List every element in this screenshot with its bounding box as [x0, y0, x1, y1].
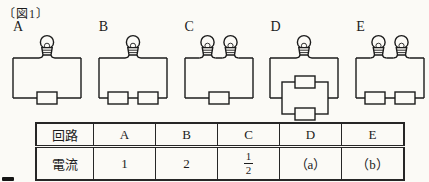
fraction-numerator: 1 [244, 150, 254, 164]
scan-artifact [2, 177, 14, 181]
circuit-diagrams-row: A B C D E [0, 19, 429, 122]
fraction-one-half: 1 2 [244, 150, 254, 176]
column-header-c: C [218, 123, 280, 147]
current-value-c: 1 2 [218, 147, 280, 181]
circuit-e: E [350, 19, 429, 122]
current-value-e: （b） [342, 147, 405, 181]
circuit-d-label: D [264, 19, 350, 34]
current-value-b: 2 [156, 147, 218, 181]
current-value-a: 1 [94, 147, 156, 181]
figure-label: 〔図1〕 [0, 0, 429, 19]
circuit-a-diagram [7, 34, 93, 122]
circuit-b-label: B [93, 19, 179, 34]
current-table: 回路 A B C D E 電流 1 2 1 2 （a） （b） [35, 122, 405, 181]
circuit-c-diagram [179, 34, 265, 122]
circuit-a-label: A [7, 19, 93, 34]
circuit-b-diagram [93, 34, 179, 122]
column-header-e: E [342, 123, 405, 147]
circuit-e-diagram [350, 34, 429, 122]
circuit-c-label: C [179, 19, 265, 34]
current-value-d: （a） [280, 147, 342, 181]
row-header-current: 電流 [36, 147, 94, 181]
circuit-d: D [264, 19, 350, 122]
circuit-c: C [179, 19, 265, 122]
column-header-d: D [280, 123, 342, 147]
circuit-b: B [93, 19, 179, 122]
column-header-a: A [94, 123, 156, 147]
table-value-row: 電流 1 2 1 2 （a） （b） [36, 147, 404, 181]
fraction-denominator: 2 [244, 164, 254, 177]
column-header-b: B [156, 123, 218, 147]
circuit-a: A [7, 19, 93, 122]
circuit-d-diagram [264, 34, 350, 122]
row-header-circuit: 回路 [36, 123, 94, 147]
circuit-e-label: E [350, 19, 429, 34]
table-header-row: 回路 A B C D E [36, 123, 404, 147]
